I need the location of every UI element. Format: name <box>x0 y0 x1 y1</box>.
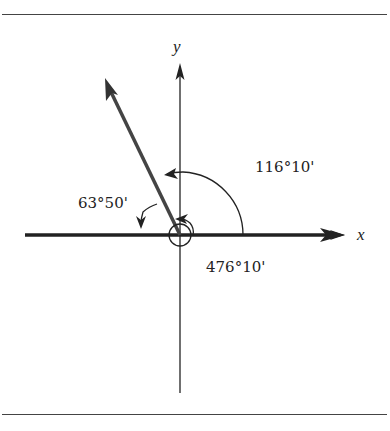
x-axis-label: x <box>356 225 365 244</box>
angle-diagram: y x 116°10' 63°50' 476°10' <box>0 0 390 431</box>
angle-label-476: 476°10' <box>206 258 265 276</box>
angle-label-116: 116°10' <box>255 158 314 176</box>
x-axis <box>25 228 345 242</box>
y-axis-label: y <box>171 37 181 56</box>
angle-label-63: 63°50' <box>78 194 128 212</box>
angle-arc-63 <box>136 204 157 229</box>
